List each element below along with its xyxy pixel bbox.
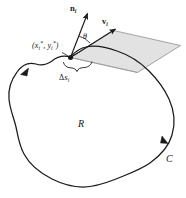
- flux-diagram-figure: ni vi θ (xi*, yi*) Δsi R C: [0, 0, 186, 198]
- region-label: R: [78, 119, 84, 129]
- arc-length-label: Δsi: [59, 73, 70, 82]
- point-y-superscript: *: [53, 40, 56, 46]
- curve-path: [9, 46, 174, 187]
- velocity-vector-label: vi: [102, 17, 108, 26]
- curve-direction-arrowheads: [21, 68, 169, 144]
- sample-point-label: (xi*, yi*): [32, 42, 59, 50]
- brace-path: [64, 62, 93, 72]
- theta-label: θ: [83, 33, 87, 41]
- curve-label: C: [166, 154, 173, 164]
- curve-arrowhead-right: [161, 136, 169, 144]
- arc-length-brace: [64, 62, 93, 72]
- normal-vector-label: ni: [70, 4, 76, 13]
- point-x-superscript: *: [40, 40, 43, 46]
- velocity-vector-subscript: i: [106, 21, 108, 27]
- arc-subscript: i: [68, 77, 70, 83]
- diagram-canvas: [0, 0, 186, 198]
- curve-arrowhead-left: [21, 68, 29, 76]
- closed-curve-c: [9, 46, 174, 187]
